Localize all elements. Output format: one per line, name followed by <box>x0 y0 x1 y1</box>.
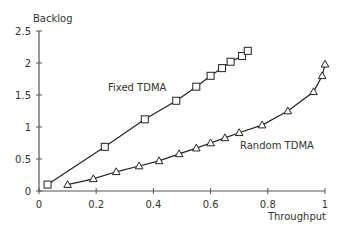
y-tick-label: 0 <box>25 186 31 197</box>
x-tick-label: 0.8 <box>260 199 276 210</box>
axes: 00.511.522.500.20.40.60.81 <box>15 26 328 210</box>
series-label-random-tdma: Random TDMA <box>240 140 314 151</box>
y-tick-label: 2 <box>25 58 31 69</box>
x-axis-label: Throughput <box>267 211 326 222</box>
y-axis-label: Backlog <box>33 13 73 24</box>
y-tick-label: 0.5 <box>15 154 31 165</box>
triangle-marker <box>284 107 292 114</box>
triangle-marker <box>310 88 318 95</box>
square-marker <box>244 47 251 54</box>
x-tick-label: 0 <box>36 199 42 210</box>
square-marker <box>141 116 148 123</box>
chart: 00.511.522.500.20.40.60.81 Backlog Throu… <box>0 0 343 235</box>
square-marker <box>173 97 180 104</box>
y-tick-label: 1.5 <box>15 90 31 101</box>
x-tick-label: 0.4 <box>145 199 161 210</box>
x-tick-label: 0.6 <box>203 199 219 210</box>
square-marker <box>227 58 234 65</box>
series-line <box>68 64 325 184</box>
triangle-marker <box>321 60 329 67</box>
series-label-fixed-tdma: Fixed TDMA <box>108 82 167 93</box>
series-random-tdma <box>64 60 329 187</box>
series-fixed-tdma <box>44 47 251 188</box>
x-tick-label: 1 <box>322 199 328 210</box>
triangle-marker <box>258 121 266 128</box>
square-marker <box>219 65 226 72</box>
y-tick-label: 2.5 <box>15 26 31 37</box>
square-marker <box>101 143 108 150</box>
x-tick-label: 0.2 <box>88 199 104 210</box>
square-marker <box>44 181 51 188</box>
triangle-marker <box>318 72 326 79</box>
square-marker <box>193 83 200 90</box>
y-tick-label: 1 <box>25 122 31 133</box>
square-marker <box>207 72 214 79</box>
series-layer <box>44 47 329 188</box>
